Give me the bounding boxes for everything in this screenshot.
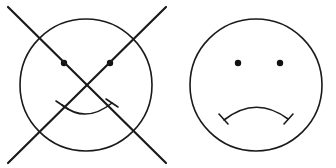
crossed-out-smiley-face [8,7,166,163]
face-outline-circle [190,19,322,151]
left-eye-dot [235,60,241,66]
faces-diagram [0,0,336,168]
strike-through-x [8,7,166,163]
frown-mouth-arc [224,107,288,120]
diagram-root [0,0,336,168]
right-eye-dot [277,60,283,66]
smile-mouth-arc [62,103,112,114]
frowning-face [190,19,322,151]
frown-mouth-tick-right [284,114,293,124]
